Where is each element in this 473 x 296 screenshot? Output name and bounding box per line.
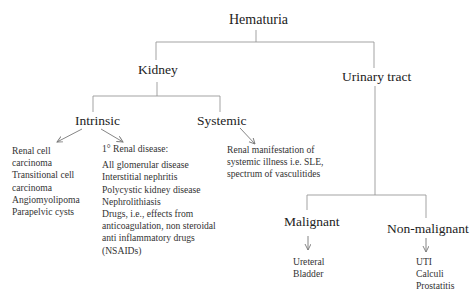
list-item: Drugs, i.e., effects from — [102, 208, 216, 220]
list-item: Polycystic kidney disease — [102, 184, 216, 196]
list-item: Angiomyolipoma — [12, 194, 80, 206]
list-item: All glomerular disease — [102, 159, 216, 171]
node-hematuria: Hematuria — [229, 12, 288, 28]
list-item: carcinoma — [12, 182, 80, 194]
list-item: Bladder — [293, 268, 324, 280]
list-item: Interstitial nephritis — [102, 171, 216, 183]
list-item: Renal cell — [12, 145, 80, 157]
list-item: Calculi — [416, 268, 454, 280]
list-item: anticoagulation, non steroidal — [102, 220, 216, 232]
non-malignant-list: UTI Calculi Prostatitis — [416, 256, 454, 293]
malignant-list: Ureteral Bladder — [293, 256, 324, 280]
renal-disease-list: 1° Renal disease: All glomerular disease… — [102, 143, 216, 257]
list-item: carcinoma — [12, 157, 80, 169]
list-item: Renal manifestation of — [227, 144, 323, 156]
node-non-malignant: Non-malignant — [387, 221, 469, 237]
list-item: Ureteral — [293, 256, 324, 268]
tumor-list: Renal cell carcinoma Transitional cell c… — [12, 145, 80, 218]
list-item: UTI — [416, 256, 454, 268]
list-item: systemic illness i.e. SLE, — [227, 156, 323, 168]
node-kidney: Kidney — [138, 62, 178, 78]
node-urinary-tract: Urinary tract — [342, 69, 411, 85]
systemic-list: Renal manifestation of systemic illness … — [227, 144, 323, 181]
node-systemic: Systemic — [197, 113, 247, 129]
list-item: Parapelvic cysts — [12, 206, 80, 218]
node-malignant: Malignant — [284, 214, 340, 230]
list-item: Transitional cell — [12, 169, 80, 181]
list-item: (NSAIDs) — [102, 245, 216, 257]
list-item: spectrum of vasculitides — [227, 168, 323, 180]
node-intrinsic: Intrinsic — [75, 113, 120, 129]
renal-disease-heading: 1° Renal disease: — [102, 143, 216, 155]
list-item: Prostatitis — [416, 280, 454, 292]
list-item: anti inflammatory drugs — [102, 232, 216, 244]
list-item: Nephrolithiasis — [102, 196, 216, 208]
